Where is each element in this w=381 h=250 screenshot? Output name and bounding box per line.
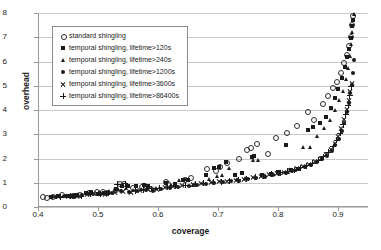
square-filled-marker-icon [204, 173, 208, 177]
triangle-filled-marker-icon [184, 177, 188, 181]
plus-marker-icon [284, 168, 290, 174]
plus-marker-icon [132, 188, 138, 194]
y-tick-mark [34, 62, 38, 63]
x-tick-label: 0.9 [323, 211, 353, 219]
legend-item-label: temporal shingling, lifetime>120s [69, 44, 171, 52]
plus-marker-icon [173, 183, 179, 189]
chart-legend: standard shinglingtemporal shingling, li… [52, 26, 188, 106]
y-tick-label: 0 [0, 203, 7, 211]
circle-open-marker-icon [330, 85, 336, 91]
plus-marker-icon [325, 149, 331, 155]
y-tick-label: 1 [0, 179, 7, 187]
x-tick-label: 0.6 [143, 211, 173, 219]
plus-marker-icon [260, 173, 266, 179]
x-tick-mark [38, 207, 39, 211]
plus-marker-icon [106, 190, 112, 196]
circle-filled-marker-icon [57, 66, 69, 78]
triangle-filled-marker-icon [352, 12, 356, 16]
marker-glyph [61, 70, 65, 74]
plus-marker-icon [345, 102, 351, 108]
legend-item: temporal shingling, lifetime>240s [57, 54, 183, 66]
cross-marker-icon [112, 189, 118, 195]
circle-open-marker-icon [273, 135, 279, 141]
marker-glyph [60, 81, 66, 87]
plus-marker-icon [200, 180, 206, 186]
square-filled-marker-icon [57, 42, 69, 54]
x-tick-mark [98, 207, 99, 211]
y-tick-mark [34, 183, 38, 184]
triangle-filled-marker-icon [337, 98, 341, 102]
plus-marker-icon [334, 137, 340, 143]
marker-glyph [61, 58, 65, 62]
y-axis-title: overhead [21, 61, 31, 121]
y-tick-label: 7 [0, 33, 7, 41]
legend-item: temporal shingling, lifetime>1200s [57, 66, 183, 78]
plus-marker-icon [340, 122, 346, 128]
square-filled-marker-icon [311, 125, 315, 129]
square-filled-marker-icon [217, 165, 221, 169]
y-tick-label: 4 [0, 106, 7, 114]
legend-item-label: standard shingling [69, 32, 126, 40]
square-filled-marker-icon [350, 24, 354, 28]
triangle-filled-marker-icon [220, 173, 224, 177]
circle-open-marker-icon [305, 109, 311, 115]
y-tick-mark [34, 37, 38, 38]
triangle-filled-marker-icon [322, 126, 326, 130]
y-tick-label: 8 [0, 9, 7, 17]
y-tick-mark [34, 134, 38, 135]
legend-item: temporal shingling, lifetime>120s [57, 42, 183, 54]
circle-open-marker-icon [294, 123, 300, 129]
triangle-filled-marker-icon [349, 42, 353, 46]
triangle-filled-marker-icon [348, 54, 352, 58]
circle-open-marker-icon [57, 30, 69, 42]
plus-marker-icon [337, 130, 343, 136]
triangle-filled-marker-icon [350, 30, 354, 34]
plus-marker-icon [235, 177, 241, 183]
triangle-filled-marker-icon [315, 134, 319, 138]
legend-item-label: temporal shingling, lifetime>86400s [69, 92, 179, 100]
plus-marker-icon [122, 181, 128, 187]
y-tick-label: 2 [0, 155, 7, 163]
gridline [39, 207, 368, 208]
x-tick-mark [158, 207, 159, 211]
circle-open-marker-icon [254, 141, 260, 147]
square-filled-marker-icon [347, 47, 351, 51]
square-filled-marker-icon [224, 160, 228, 164]
circle-open-marker-icon [311, 117, 317, 123]
marker-glyph [61, 34, 67, 40]
square-filled-marker-icon [306, 128, 310, 132]
plus-marker-icon [88, 191, 94, 197]
circle-filled-marker-icon [351, 71, 355, 75]
circle-filled-marker-icon [352, 58, 356, 62]
legend-item-label: temporal shingling, lifetime>1200s [69, 68, 175, 76]
plus-marker-icon [330, 144, 336, 150]
x-axis-title: coverage [0, 226, 381, 236]
legend-item: temporal shingling, lifetime>86400s [57, 90, 183, 102]
cross-marker-icon [57, 78, 69, 90]
plus-marker-icon [57, 90, 69, 102]
triangle-filled-marker-icon [328, 118, 332, 122]
plus-marker-icon [218, 179, 224, 185]
plus-marker-icon [252, 174, 258, 180]
plus-marker-icon [347, 93, 353, 99]
y-tick-label: 5 [0, 82, 7, 90]
square-filled-marker-icon [240, 171, 244, 175]
circle-open-marker-icon [338, 70, 344, 76]
x-tick-label: 0.4 [23, 211, 53, 219]
plus-marker-icon [244, 176, 250, 182]
y-tick-label: 6 [0, 58, 7, 66]
circle-open-marker-icon [284, 130, 290, 136]
y-tick-mark [34, 110, 38, 111]
x-tick-mark [218, 207, 219, 211]
plus-marker-icon [164, 184, 170, 190]
triangle-filled-marker-icon [215, 174, 219, 178]
legend-item: temporal shingling, lifetime>3600s [57, 78, 183, 90]
plus-marker-icon [348, 84, 354, 90]
circle-open-marker-icon [204, 166, 210, 172]
square-filled-marker-icon [212, 166, 216, 170]
plus-marker-icon [156, 185, 162, 191]
y-tick-mark [34, 159, 38, 160]
square-filled-marker-icon [284, 143, 288, 147]
square-filled-marker-icon [318, 121, 322, 125]
x-tick-label: 0.7 [203, 211, 233, 219]
